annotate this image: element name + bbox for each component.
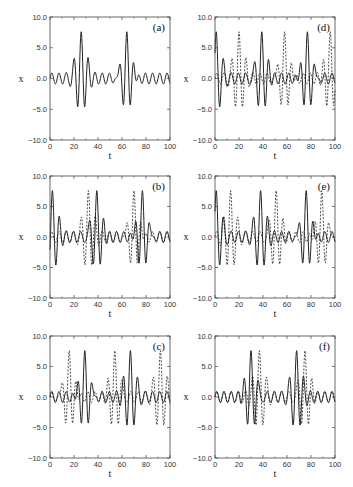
series-dashed-line: [215, 32, 335, 107]
panel-label: (b): [152, 180, 165, 193]
series-dashed-line: [50, 191, 170, 265]
y-tick-label: −5.0: [32, 263, 47, 272]
y-tick-label: 10.0: [32, 332, 47, 341]
y-tick-label: −5.0: [32, 423, 47, 432]
y-tick-label: 5.0: [202, 202, 212, 211]
series-solid-line: [50, 191, 170, 265]
y-tick-label: 10.0: [197, 332, 212, 341]
x-axis-label: t: [109, 150, 112, 161]
x-tick-label: 20: [70, 142, 78, 151]
x-tick-label: 20: [235, 142, 243, 151]
series-solid-line: [215, 351, 335, 425]
x-tick-label: 20: [235, 460, 243, 469]
panel-f: 020406080100−10.0−5.00.05.010.0tx(f): [184, 332, 342, 479]
x-tick-label: 0: [213, 300, 217, 309]
x-tick-label: 100: [164, 460, 177, 469]
y-tick-label: −10.0: [28, 454, 47, 463]
x-tick-label: 60: [118, 460, 126, 469]
y-axis-label: x: [19, 391, 24, 402]
x-tick-label: 0: [213, 460, 217, 469]
y-tick-label: 0.0: [37, 393, 47, 402]
series-dashed-line: [50, 351, 170, 425]
y-tick-label: 10.0: [197, 172, 212, 181]
y-tick-label: −5.0: [197, 423, 212, 432]
x-tick-label: 80: [307, 460, 315, 469]
figure-canvas: 020406080100−10.0−5.00.05.010.0tx(a)0204…: [0, 0, 353, 487]
y-tick-label: −10.0: [28, 294, 47, 303]
panel-label: (a): [153, 21, 166, 34]
x-tick-label: 80: [307, 142, 315, 151]
x-tick-label: 60: [283, 460, 291, 469]
y-tick-label: 10.0: [32, 13, 47, 22]
panel-a: 020406080100−10.0−5.00.05.010.0tx(a): [19, 13, 177, 161]
x-axis-label: t: [109, 308, 112, 319]
x-tick-label: 40: [94, 460, 102, 469]
y-axis-label: x: [184, 73, 189, 84]
x-tick-label: 80: [307, 300, 315, 309]
y-tick-label: −10.0: [193, 454, 212, 463]
x-tick-label: 40: [94, 142, 102, 151]
x-tick-label: 20: [70, 300, 78, 309]
y-tick-label: 5.0: [202, 43, 212, 52]
x-tick-label: 40: [94, 300, 102, 309]
y-axis-label: x: [19, 231, 24, 242]
y-tick-label: 0.0: [37, 233, 47, 242]
y-axis-label: x: [184, 391, 189, 402]
x-tick-label: 0: [48, 460, 52, 469]
x-tick-label: 0: [48, 300, 52, 309]
y-tick-label: 0.0: [202, 74, 212, 83]
panel-d: 020406080100−10.0−5.00.05.010.0tx(d): [184, 13, 342, 161]
y-tick-label: 5.0: [37, 202, 47, 211]
panel-label: (f): [319, 340, 330, 353]
x-tick-label: 40: [259, 460, 267, 469]
x-tick-label: 40: [259, 142, 267, 151]
panel-e: 020406080100−10.0−5.00.05.010.0tx(e): [184, 172, 342, 319]
x-tick-label: 80: [142, 300, 150, 309]
y-tick-label: 0.0: [202, 233, 212, 242]
x-tick-label: 60: [118, 300, 126, 309]
x-tick-label: 20: [235, 300, 243, 309]
x-tick-label: 100: [329, 142, 342, 151]
panel-c: 020406080100−10.0−5.00.05.010.0tx(c): [19, 332, 177, 479]
y-tick-label: −5.0: [32, 105, 47, 114]
y-tick-label: −10.0: [28, 136, 47, 145]
panel-b: 020406080100−10.0−5.00.05.010.0tx(b): [19, 172, 177, 319]
x-tick-label: 100: [164, 142, 177, 151]
x-tick-label: 40: [259, 300, 267, 309]
x-tick-label: 100: [329, 460, 342, 469]
x-tick-label: 60: [283, 142, 291, 151]
x-tick-label: 60: [118, 142, 126, 151]
panel-label: (c): [153, 340, 166, 353]
y-tick-label: 10.0: [197, 13, 212, 22]
series-dashed-line: [215, 351, 335, 425]
y-tick-label: −10.0: [193, 294, 212, 303]
y-tick-label: 5.0: [37, 43, 47, 52]
x-tick-label: 80: [142, 142, 150, 151]
y-tick-label: −5.0: [197, 263, 212, 272]
y-tick-label: 5.0: [37, 362, 47, 371]
x-tick-label: 60: [283, 300, 291, 309]
x-tick-label: 100: [164, 300, 177, 309]
y-tick-label: 5.0: [202, 362, 212, 371]
x-axis-label: t: [274, 468, 277, 479]
x-tick-label: 100: [329, 300, 342, 309]
panel-label: (d): [317, 21, 330, 34]
y-axis-label: x: [19, 73, 24, 84]
x-tick-label: 0: [48, 142, 52, 151]
y-tick-label: 0.0: [202, 393, 212, 402]
y-tick-label: 0.0: [37, 74, 47, 83]
y-axis-label: x: [184, 231, 189, 242]
x-axis-label: t: [274, 308, 277, 319]
x-tick-label: 20: [70, 460, 78, 469]
y-tick-label: 10.0: [32, 172, 47, 181]
x-axis-label: t: [274, 150, 277, 161]
y-tick-label: −5.0: [197, 105, 212, 114]
series-dashed-line: [215, 191, 335, 265]
series-solid-line: [50, 32, 170, 107]
x-tick-label: 80: [142, 460, 150, 469]
y-tick-label: −10.0: [193, 136, 212, 145]
panel-label: (e): [318, 180, 331, 193]
x-axis-label: t: [109, 468, 112, 479]
x-tick-label: 0: [213, 142, 217, 151]
